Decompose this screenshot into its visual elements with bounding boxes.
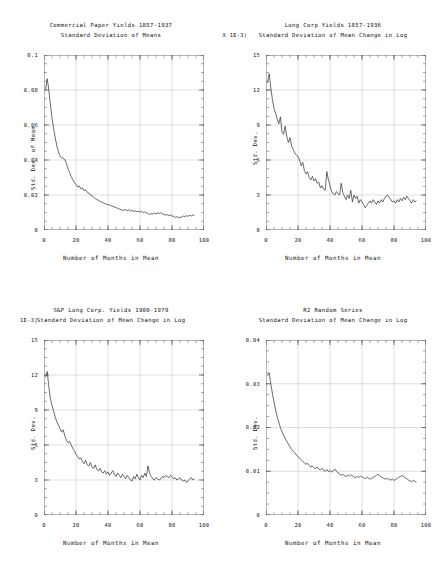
y-tick-label: 6 <box>4 442 38 448</box>
y-tick-label: 0.02 <box>226 424 260 430</box>
x-tick-label: 40 <box>98 522 118 528</box>
y-tick-label: 0.03 <box>226 381 260 387</box>
y-tick-label: 0.08 <box>4 87 38 93</box>
y-tick-label: 3 <box>4 477 38 483</box>
panel-title: S&P Long Corp. Yields 1900-1979 <box>0 306 222 314</box>
y-tick-label: 0.01 <box>226 468 260 474</box>
plot-svg <box>266 340 426 515</box>
x-tick-label: 100 <box>416 237 436 243</box>
x-tick-label: 20 <box>288 237 308 243</box>
panel-title: Long Corp Yields 1857-1936 <box>222 21 444 29</box>
panel-subtitle: Standard Deviation of Mean Change in Log <box>222 31 444 39</box>
y-tick-label: 0 <box>226 512 260 518</box>
x-tick-label: 80 <box>384 237 404 243</box>
y-tick-label: 0.02 <box>4 192 38 198</box>
x-tick-label: 80 <box>162 522 182 528</box>
y-tick-label: 0.06 <box>4 122 38 128</box>
plot-svg <box>266 55 426 230</box>
x-tick-label: 80 <box>162 237 182 243</box>
x-tick-label: 0 <box>256 237 276 243</box>
panel-title: Commercial Paper Yields 1857-1937 <box>0 21 222 29</box>
y-tick-label: 0.04 <box>226 337 260 343</box>
x-tick-label: 0 <box>34 522 54 528</box>
x-axis-label: Number of Months in Mean <box>0 540 222 546</box>
panel-subtitle: Standard Deviation of Mean Change in Log <box>222 316 444 324</box>
y-tick-label: 12 <box>226 87 260 93</box>
y-tick-label: 15 <box>226 52 260 58</box>
y-tick-label: 3 <box>226 192 260 198</box>
y-tick-label: 0 <box>226 227 260 233</box>
x-tick-label: 60 <box>130 522 150 528</box>
x-tick-label: 100 <box>194 237 214 243</box>
panel-commercial-paper: Commercial Paper Yields 1857-1937 Standa… <box>0 0 222 285</box>
panel-title: R2 Random Series <box>222 306 444 314</box>
plot-area: 03691215 020406080100 <box>266 55 426 230</box>
x-tick-label: 20 <box>66 237 86 243</box>
x-axis-label: Number of Months in Mean <box>0 255 222 261</box>
y-tick-label: 0.1 <box>4 52 38 58</box>
plot-background <box>44 55 204 230</box>
x-tick-label: 0 <box>256 522 276 528</box>
x-tick-label: 20 <box>288 522 308 528</box>
panel-r2-random: R2 Random Series Standard Deviation of M… <box>222 285 444 570</box>
x-tick-label: 40 <box>320 522 340 528</box>
x-tick-label: 40 <box>98 237 118 243</box>
plot-background <box>44 340 204 515</box>
x-tick-label: 40 <box>320 237 340 243</box>
plot-svg <box>44 340 204 515</box>
x-tick-label: 0 <box>34 237 54 243</box>
panel-sp-long-corp: S&P Long Corp. Yields 1900-1979 Standard… <box>0 285 222 570</box>
y-axis-label: Std. Dev. <box>252 416 258 450</box>
y-tick-label: 9 <box>226 122 260 128</box>
x-tick-label: 60 <box>352 237 372 243</box>
y-tick-label: 0.04 <box>4 157 38 163</box>
x-tick-label: 60 <box>352 522 372 528</box>
y-tick-label: 0 <box>4 227 38 233</box>
y-tick-label: 0 <box>4 512 38 518</box>
panel-scale-note: 1E-3) <box>20 316 38 324</box>
x-axis-label: Number of Months in Mean <box>222 255 444 261</box>
y-tick-label: 15 <box>4 337 38 343</box>
plot-svg <box>44 55 204 230</box>
x-axis-label: Number of Months in Mean <box>222 540 444 546</box>
panel-long-corp: Long Corp Yields 1857-1936 Standard Devi… <box>222 0 444 285</box>
x-tick-label: 100 <box>194 522 214 528</box>
x-tick-label: 20 <box>66 522 86 528</box>
panel-scale-note: (X 1E-3) <box>222 31 247 39</box>
plot-area: 00.010.020.030.04 020406080100 <box>266 340 426 515</box>
x-tick-label: 80 <box>384 522 404 528</box>
plot-background <box>266 55 426 230</box>
panel-subtitle: Standard Deviation of Means <box>0 31 222 39</box>
y-tick-label: 6 <box>226 157 260 163</box>
y-tick-label: 9 <box>4 407 38 413</box>
y-tick-label: 12 <box>4 372 38 378</box>
plot-area: 00.020.040.060.080.1 020406080100 <box>44 55 204 230</box>
x-tick-label: 60 <box>130 237 150 243</box>
plot-area: 03691215 020406080100 <box>44 340 204 515</box>
x-tick-label: 100 <box>416 522 436 528</box>
figure-grid: Commercial Paper Yields 1857-1937 Standa… <box>0 0 444 570</box>
